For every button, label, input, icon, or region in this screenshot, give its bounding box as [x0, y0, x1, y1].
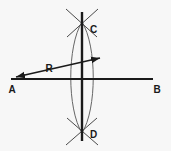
label-point-d: D [90, 129, 97, 140]
arc-from-b [71, 22, 82, 133]
geometric-construction-figure: A B C D R [0, 0, 171, 151]
radius-arrow [16, 58, 100, 77]
label-point-c: C [90, 24, 97, 35]
construction-drawing: A B C D R [0, 0, 171, 151]
label-radius: R [45, 63, 53, 74]
label-point-a: A [8, 84, 15, 95]
label-point-b: B [153, 84, 160, 95]
arc-from-a [82, 22, 93, 133]
